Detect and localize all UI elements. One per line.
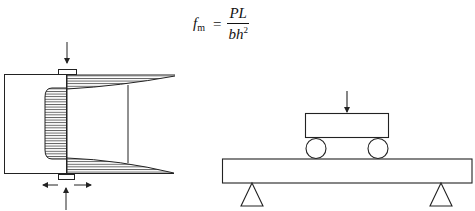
right-roller	[368, 139, 388, 159]
bottom-wedge-hatch	[67, 157, 177, 174]
beam-specimen	[223, 159, 473, 183]
stress-distribution-figure	[5, 42, 178, 210]
compression-block-hatch	[45, 88, 66, 159]
left-roller	[306, 139, 326, 159]
right-support-icon	[430, 183, 452, 206]
loading-block	[306, 114, 389, 138]
bottom-loading-plate	[59, 175, 75, 180]
three-point-bending-rig	[223, 91, 473, 206]
diagram-canvas	[0, 0, 475, 211]
left-support-icon	[241, 183, 263, 206]
top-loading-plate	[59, 70, 77, 75]
